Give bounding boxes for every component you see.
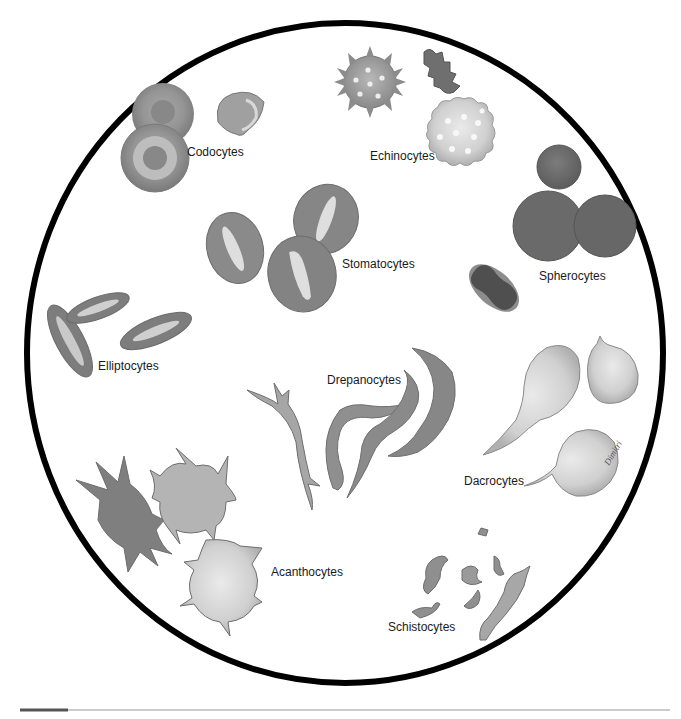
label-acanthocytes: Acanthocytes (271, 565, 343, 579)
echinocytes-illustration (334, 46, 495, 166)
stomatocytes-illustration (199, 175, 368, 318)
label-drepanocytes: Drepanocytes (327, 373, 401, 387)
label-dacrocytes: Dacrocytes (464, 474, 524, 488)
codocytes-illustration (121, 83, 264, 192)
label-schistocytes: Schistocytes (388, 620, 455, 634)
label-stomatocytes: Stomatocytes (342, 257, 415, 271)
label-elliptocytes: Elliptocytes (98, 359, 159, 373)
label-echinocytes: Echinocytes (370, 149, 435, 163)
rbc-morphology-figure: Dimitri Codocytes Echinocytes Stomatocyt… (0, 0, 681, 719)
dacrocytes-illustration (483, 336, 638, 496)
acanthocytes-illustration (76, 448, 262, 636)
figure-canvas: Dimitri Codocytes Echinocytes Stomatocyt… (0, 0, 681, 719)
label-codocytes: Codocytes (187, 145, 244, 159)
label-spherocytes: Spherocytes (539, 269, 606, 283)
